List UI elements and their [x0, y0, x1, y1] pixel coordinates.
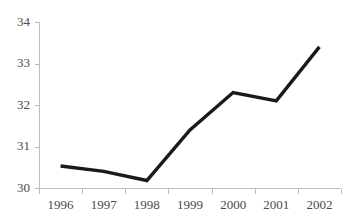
- x-tick-label: 2000: [220, 197, 246, 212]
- y-tick-label: 33: [17, 55, 30, 70]
- x-tick-label: 2002: [306, 197, 332, 212]
- x-tick-label: 2001: [263, 197, 289, 212]
- y-tick-label: 31: [17, 138, 30, 153]
- y-tick-label: 32: [17, 97, 30, 112]
- x-tick-label: 1997: [91, 197, 118, 212]
- y-tick-label: 34: [17, 14, 31, 29]
- line-chart: 3031323334 1996199719981999200020012002: [0, 0, 349, 222]
- y-tick-label: 30: [17, 180, 30, 195]
- chart-canvas: 3031323334 1996199719981999200020012002: [0, 0, 349, 222]
- x-tick-label: 1996: [48, 197, 75, 212]
- x-tick-label: 1998: [134, 197, 160, 212]
- x-tick-label: 1999: [177, 197, 203, 212]
